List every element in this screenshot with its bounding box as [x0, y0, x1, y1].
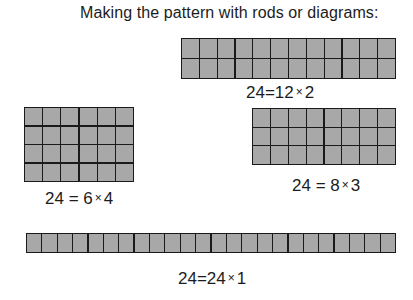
rod-cell	[43, 145, 60, 162]
rod-cell	[271, 146, 288, 164]
rod-cell	[360, 128, 377, 146]
factor-a: 6	[83, 189, 92, 208]
rod-cell	[43, 108, 60, 125]
times-sign: ×	[95, 191, 102, 205]
times-sign: ×	[228, 271, 235, 285]
equation-lhs: 24	[45, 189, 64, 208]
rod-cell	[182, 59, 199, 78]
rod-cell	[343, 39, 360, 58]
rod-cell	[325, 146, 342, 164]
rod-cell	[150, 234, 164, 252]
rod-cell	[343, 59, 360, 78]
rod-cell	[98, 127, 115, 144]
rod-cell	[236, 59, 253, 78]
factor-a: 12	[275, 83, 294, 102]
rod-cell	[80, 145, 97, 162]
rod-cell	[378, 109, 395, 127]
rod-cell	[89, 234, 103, 252]
rod-cell	[289, 39, 306, 58]
equation-24x1: 24=24×1	[178, 269, 246, 289]
rod-cell	[119, 234, 133, 252]
equals-sign: =	[316, 176, 326, 195]
rod-cell	[116, 127, 133, 144]
rod-cell	[271, 59, 288, 78]
rod-cell	[289, 59, 306, 78]
rod-cell	[182, 39, 199, 58]
rod-cell	[319, 234, 333, 252]
rod-cell	[73, 234, 87, 252]
rod-cell	[325, 39, 342, 58]
rod-cell	[381, 234, 395, 252]
rod-cell	[307, 109, 324, 127]
rod-cell	[325, 128, 342, 146]
rod-cell	[342, 128, 359, 146]
rod-cell	[196, 234, 210, 252]
equation-lhs: 24	[246, 83, 265, 102]
rod-cell	[378, 39, 395, 58]
rod-cell	[258, 234, 272, 252]
rod-cell	[25, 108, 42, 125]
rod-cell	[116, 108, 133, 125]
rod-cell	[116, 145, 133, 162]
rod-cell	[98, 145, 115, 162]
rod-cell	[304, 234, 318, 252]
rod-cell	[227, 234, 241, 252]
times-sign: ×	[296, 85, 303, 99]
equals-sign: =	[265, 83, 275, 102]
rod-cell	[253, 109, 270, 127]
rod-cell	[104, 234, 118, 252]
rod-cell	[289, 234, 303, 252]
rod-cell	[61, 127, 78, 144]
equals-sign: =	[69, 189, 79, 208]
rod-cell	[307, 146, 324, 164]
rod-cell	[365, 234, 379, 252]
rod-cell	[236, 39, 253, 58]
rod-cell	[116, 164, 133, 181]
rod-cell	[360, 109, 377, 127]
rod-cell	[307, 128, 324, 146]
rod-cell	[360, 59, 377, 78]
rod-cell	[98, 108, 115, 125]
rod-cell	[342, 109, 359, 127]
rod-cell	[350, 234, 364, 252]
rod-grid-8x3	[252, 108, 396, 165]
rod-cell	[218, 59, 235, 78]
diagram-title: Making the pattern with rods or diagrams…	[80, 4, 378, 22]
rod-cell	[218, 39, 235, 58]
rod-cell	[342, 146, 359, 164]
rod-cell	[307, 59, 324, 78]
equation-8x3: 24 = 8×3	[292, 176, 360, 196]
rod-cell	[25, 164, 42, 181]
rod-cell	[27, 234, 41, 252]
rod-cell	[98, 164, 115, 181]
factor-b: 1	[237, 269, 246, 288]
equation-12x2: 24=12×2	[246, 83, 314, 103]
factor-b: 2	[305, 83, 314, 102]
rod-cell	[253, 146, 270, 164]
rod-cell	[253, 39, 270, 58]
rod-cell	[25, 127, 42, 144]
equation-6x4: 24 = 6×4	[45, 189, 113, 209]
rod-cell	[135, 234, 149, 252]
rod-cell	[271, 39, 288, 58]
rod-cell	[271, 128, 288, 146]
rod-cell	[325, 109, 342, 127]
rod-cell	[378, 146, 395, 164]
rod-cell	[289, 128, 306, 146]
rod-cell	[200, 39, 217, 58]
rod-cell	[360, 146, 377, 164]
rod-grid-24x1	[26, 233, 396, 253]
rod-cell	[360, 39, 377, 58]
rod-cell	[25, 145, 42, 162]
rod-cell	[378, 59, 395, 78]
equation-lhs: 24	[292, 176, 311, 195]
rod-cell	[61, 164, 78, 181]
rod-cell	[80, 127, 97, 144]
rod-cell	[200, 59, 217, 78]
rod-cell	[43, 127, 60, 144]
rod-cell	[253, 128, 270, 146]
rod-cell	[165, 234, 179, 252]
rod-cell	[80, 108, 97, 125]
rod-cell	[61, 108, 78, 125]
rod-cell	[43, 164, 60, 181]
